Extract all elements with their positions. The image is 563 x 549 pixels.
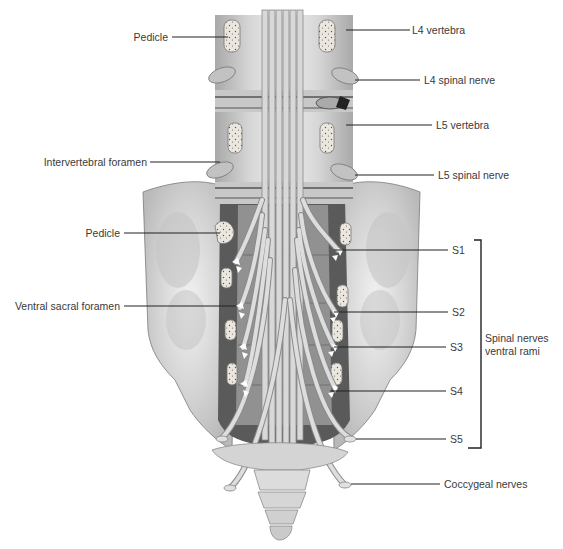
- label-l4-vertebra: L4 vertebra: [412, 24, 465, 36]
- label-spinal-nerves-ventral-rami: Spinal nerves ventral rami: [485, 332, 549, 358]
- coccyx: [212, 443, 348, 540]
- bracket-spinal-nerves: [468, 240, 481, 448]
- label-pedicle-upper: Pedicle: [134, 31, 168, 43]
- label-ventral-sacral-foramen: Ventral sacral foramen: [15, 300, 120, 312]
- label-coccygeal-nerves: Coccygeal nerves: [444, 478, 527, 490]
- label-intervertebral-foramen: Intervertebral foramen: [44, 156, 147, 168]
- label-pedicle-lower: Pedicle: [86, 227, 120, 239]
- anatomy-diagram: Pedicle Intervertebral foramen Pedicle V…: [0, 0, 563, 549]
- group-label-line2: ventral rami: [485, 345, 549, 358]
- label-s2: S2: [452, 306, 465, 318]
- group-label-line1: Spinal nerves: [485, 332, 549, 345]
- label-s1: S1: [452, 244, 465, 256]
- label-s4: S4: [450, 385, 463, 397]
- label-l5-spinal-nerve: L5 spinal nerve: [438, 169, 509, 181]
- label-l5-vertebra: L5 vertebra: [436, 119, 489, 131]
- herniated-disc: [316, 96, 350, 110]
- label-l4-spinal-nerve: L4 spinal nerve: [424, 74, 495, 86]
- label-s5: S5: [450, 433, 463, 445]
- label-s3: S3: [450, 341, 463, 353]
